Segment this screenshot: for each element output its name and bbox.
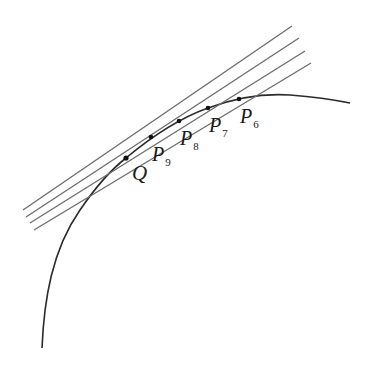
label-p7: P7 [208,114,228,139]
diagram-canvas: QP9P8P7P6 [0,0,389,367]
label-p6: P6 [239,105,259,130]
point-p7 [206,106,211,111]
point-p9 [149,135,154,140]
label-q: Q [132,161,147,185]
secant-line [34,63,311,230]
point-q [123,155,128,160]
point-p6 [237,97,242,102]
point-p8 [177,119,182,124]
label-p9: P9 [151,143,171,168]
labels: QP9P8P7P6 [132,105,259,185]
secant-line [30,51,305,223]
label-p8: P8 [179,127,199,152]
